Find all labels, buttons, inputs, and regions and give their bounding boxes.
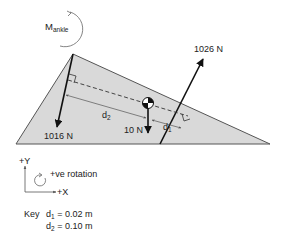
key-d2-row: d2 = 0.10 m [46,222,92,233]
d1-label: d1 [163,123,172,134]
x-axis-label: +X [57,188,68,197]
moment-subscript: ankle [53,26,69,33]
foot-free-body-diagram [0,0,283,239]
weight-10n-label: 10 N [124,126,143,135]
moment-symbol: M [45,21,53,32]
d1-subscript: 1 [168,126,172,133]
force-1016n-label: 1016 N [44,132,73,141]
key-d2-value: = 0.10 m [55,221,93,231]
key-d1-value: = 0.02 m [55,209,93,219]
y-axis-label: +Y [19,157,30,166]
force-1026n-label: 1026 N [194,45,223,54]
d2-label: d2 [102,111,111,122]
rotation-direction-icon [35,173,46,186]
key-title: Key [24,210,40,219]
key-d1-row: d1 = 0.02 m [46,210,92,221]
rotation-label: +ve rotation [50,170,97,179]
moment-ankle-label: Mankle [45,22,68,34]
centre-of-mass-icon [143,98,154,109]
d2-subscript: 2 [107,114,111,121]
